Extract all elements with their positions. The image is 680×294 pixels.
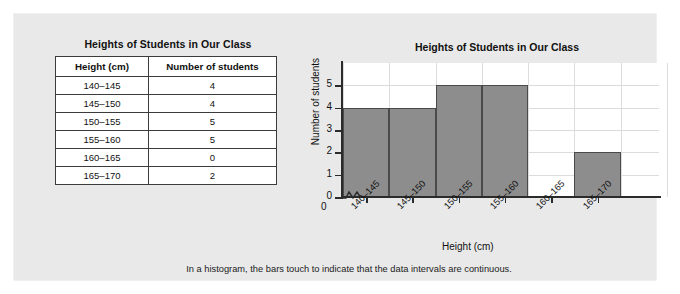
figure-page: Heights of Students in Our Class Height … bbox=[0, 0, 680, 294]
histogram-bar bbox=[482, 85, 528, 197]
table-row: 140–145 4 bbox=[56, 77, 277, 95]
axis-break-icon bbox=[342, 189, 362, 201]
table-cell-count: 0 bbox=[149, 149, 277, 167]
table-row: 160–165 0 bbox=[56, 149, 277, 167]
table-row: 155–160 5 bbox=[56, 131, 277, 149]
table-header-count: Number of students bbox=[149, 57, 277, 77]
table-cell-interval: 140–145 bbox=[56, 77, 149, 95]
frequency-table: Height (cm) Number of students 140–145 4… bbox=[55, 56, 277, 185]
table-cell-count: 4 bbox=[149, 95, 277, 113]
table-cell-interval: 145–150 bbox=[56, 95, 149, 113]
y-tick bbox=[335, 85, 342, 87]
figure-caption: In a histogram, the bars touch to indica… bbox=[28, 264, 670, 274]
table-cell-count: 5 bbox=[149, 131, 277, 149]
table-cell-count: 5 bbox=[149, 113, 277, 131]
y-tick bbox=[335, 130, 342, 132]
table-header-row: Height (cm) Number of students bbox=[56, 57, 277, 77]
y-tick-label: 4 bbox=[318, 101, 332, 112]
y-tick-label: 0 bbox=[318, 190, 332, 201]
table-row: 145–150 4 bbox=[56, 95, 277, 113]
table-cell-interval: 165–170 bbox=[56, 167, 149, 185]
table-header-height: Height (cm) bbox=[56, 57, 149, 77]
y-tick-label: 1 bbox=[318, 168, 332, 179]
table-cell-count: 2 bbox=[149, 167, 277, 185]
y-tick bbox=[335, 175, 342, 177]
table-cell-interval: 160–165 bbox=[56, 149, 149, 167]
table-row: 165–170 2 bbox=[56, 167, 277, 185]
frequency-table-block: Heights of Students in Our Class Height … bbox=[55, 38, 281, 185]
y-tick-label: 5 bbox=[318, 78, 332, 89]
y-tick bbox=[335, 197, 342, 199]
x-axis-label: Height (cm) bbox=[442, 241, 494, 252]
histogram-bar bbox=[343, 108, 389, 197]
y-tick-label: 2 bbox=[318, 145, 332, 156]
table-cell-interval: 150–155 bbox=[56, 113, 149, 131]
histogram-block: Heights of Students in Our Class Number … bbox=[292, 36, 664, 266]
figure-panel: Heights of Students in Our Class Height … bbox=[14, 14, 656, 280]
origin-zero-label: 0 bbox=[321, 201, 327, 212]
histogram-bar bbox=[389, 108, 435, 197]
table-title: Heights of Students in Our Class bbox=[55, 38, 281, 50]
histogram-bar bbox=[436, 85, 482, 197]
plot-area bbox=[342, 63, 659, 197]
table-cell-count: 4 bbox=[149, 77, 277, 95]
y-tick bbox=[335, 152, 342, 154]
chart-title: Heights of Students in Our Class bbox=[337, 41, 657, 53]
table-row: 150–155 5 bbox=[56, 113, 277, 131]
grid-line-vertical bbox=[667, 63, 668, 197]
table-cell-interval: 155–160 bbox=[56, 131, 149, 149]
y-tick bbox=[335, 108, 342, 110]
y-tick-label: 3 bbox=[318, 123, 332, 134]
